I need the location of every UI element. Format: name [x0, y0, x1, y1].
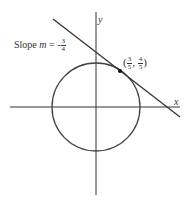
point-label: (35, 45) — [123, 56, 147, 71]
slope-equals: = — [49, 39, 55, 50]
diagram-canvas — [0, 0, 184, 206]
slope-text: Slope — [14, 39, 37, 50]
slope-var: m — [39, 39, 46, 50]
tangent-line — [53, 19, 180, 117]
x-axis-label: x — [174, 97, 178, 107]
y-axis-label: y — [98, 15, 102, 25]
slope-fraction: 34 — [61, 38, 67, 53]
slope-label: Slope m = -34 — [14, 38, 66, 53]
tangent-point — [118, 69, 122, 73]
